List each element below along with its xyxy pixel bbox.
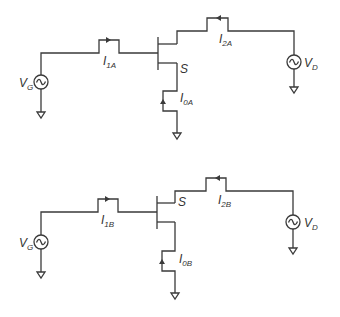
- current-label-i0a: I0A: [180, 91, 193, 107]
- arrow-up-icon: [159, 259, 165, 264]
- vd-label: VD: [304, 56, 318, 72]
- current-label-i2b: I2B: [218, 193, 232, 209]
- current-label-i0b: I0B: [179, 252, 193, 268]
- source-terminal-label: S: [180, 62, 188, 76]
- arrow-left-icon: [215, 175, 220, 181]
- transistor-icon: [157, 196, 175, 229]
- vg-label: VG: [19, 76, 33, 92]
- vd-label: VD: [304, 216, 318, 232]
- ground-icon: [37, 112, 45, 118]
- ground-icon: [290, 87, 298, 93]
- transistor-icon: [158, 37, 177, 70]
- ground-icon: [171, 293, 179, 299]
- ac-source-icon: [287, 55, 301, 69]
- source-wire: [163, 63, 177, 133]
- source-terminal-label: S: [178, 195, 186, 209]
- gate-wire: [41, 199, 157, 235]
- drain-wire: [175, 178, 293, 215]
- ac-source-icon: [286, 215, 300, 229]
- current-label-i1a: I1A: [103, 54, 116, 70]
- ground-icon: [173, 133, 181, 139]
- ac-source-icon: [34, 235, 48, 249]
- gate-wire: [41, 40, 158, 75]
- source-wire: [162, 222, 175, 293]
- ground-icon: [289, 248, 297, 254]
- current-label-i1b: I1B: [101, 213, 115, 229]
- circuit-diagram: VG VD I1A I2A I0A S: [0, 0, 340, 317]
- arrow-up-icon: [160, 99, 166, 104]
- ac-source-icon: [34, 75, 48, 89]
- vg-label: VG: [19, 236, 33, 252]
- circuit-a: VG VD I1A I2A I0A S: [19, 15, 318, 139]
- arrow-left-icon: [216, 15, 221, 21]
- circuit-b: VG VD I1B I2B I0B S: [19, 175, 318, 299]
- ground-icon: [37, 272, 45, 278]
- arrow-right-icon: [105, 196, 110, 202]
- arrow-right-icon: [106, 37, 111, 43]
- current-label-i2a: I2A: [219, 32, 232, 48]
- drain-wire: [177, 18, 294, 55]
